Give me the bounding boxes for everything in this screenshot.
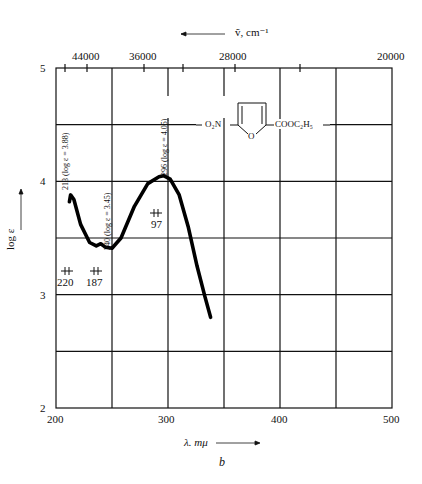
peak-annotation: 296 (log ε = 4.05) xyxy=(160,119,169,176)
nitro-group: O₂N xyxy=(205,119,221,129)
x-tick-label: 500 xyxy=(383,413,400,425)
top-axis-label: ṽ, cm⁻¹ xyxy=(235,26,269,39)
slit-label: 220 xyxy=(57,276,74,288)
top-tick-label: 20000 xyxy=(377,50,405,62)
y-axis-arrow-icon xyxy=(19,189,23,230)
x-tick-label: 200 xyxy=(47,413,64,425)
figure-label: b xyxy=(219,455,225,470)
slit-label: 97 xyxy=(151,218,162,230)
y-tick-label: 3 xyxy=(40,289,46,301)
top-tick-label: 44000 xyxy=(72,50,100,62)
y-tick-label: 5 xyxy=(40,62,46,74)
peak-annotation: 240 (log ε = 3.45) xyxy=(103,193,112,250)
top-tick-label: 36000 xyxy=(129,50,157,62)
slit-label: 187 xyxy=(86,276,103,288)
top-axis-arrow-icon xyxy=(181,32,225,36)
furan-ring-icon xyxy=(230,103,274,134)
y-tick-label: 4 xyxy=(40,175,46,187)
y-axis-label: log ε xyxy=(4,229,16,250)
top-tick-label: 28000 xyxy=(219,50,247,62)
absorption-curve xyxy=(69,176,210,318)
x-axis-label: λ. mμ xyxy=(184,436,208,448)
peak-annotation: 213 (log ε = 3.88) xyxy=(61,133,70,190)
ester-group: COOC₂H₅ xyxy=(275,119,313,129)
ring-oxygen: O xyxy=(248,131,255,141)
spectrum-chart xyxy=(0,0,422,484)
x-tick-label: 300 xyxy=(158,413,175,425)
x-tick-label: 400 xyxy=(271,413,288,425)
x-axis-arrow-icon xyxy=(216,441,260,445)
y-tick-label: 2 xyxy=(40,402,46,414)
